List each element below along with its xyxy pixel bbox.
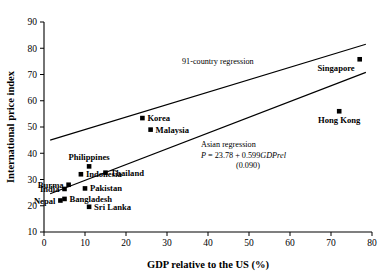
data-point-malaysia: Malaysia: [148, 125, 189, 135]
marker-square: [140, 116, 145, 121]
data-point-hong-kong: Hong Kong: [318, 109, 361, 125]
chart-figure: 102030405060708090 01020304050607080 Nep…: [0, 0, 382, 275]
y-tick-label-10: 10: [28, 227, 38, 237]
data-point-korea: Korea: [140, 113, 171, 123]
data-point-label: Sri Lanka: [94, 202, 132, 212]
x-tick-label-0: 0: [42, 238, 47, 248]
marker-square: [58, 198, 63, 203]
data-point-label: Burma: [38, 180, 64, 190]
marker-square: [337, 109, 342, 114]
x-axis-title: GDP relative to the US (%): [147, 259, 269, 271]
data-point-label: Hong Kong: [318, 115, 361, 125]
equation-variable: GDPrel: [260, 151, 286, 160]
marker-square: [66, 182, 71, 187]
data-points: NepalBangladeshIndiaBurmaIndonesiaPakist…: [34, 57, 362, 212]
y-tick-label-30: 30: [28, 175, 38, 185]
y-tick-label-50: 50: [28, 122, 38, 132]
data-point-label: Pakistan: [90, 183, 122, 193]
x-tick-label-40: 40: [203, 238, 213, 248]
data-point-label: Philippines: [69, 152, 111, 162]
annotation-asian-regression: Asian regression: [201, 140, 256, 149]
y-axis-title: International price index: [5, 70, 16, 183]
x-tick-label-60: 60: [285, 238, 295, 248]
data-point-philippines: Philippines: [69, 152, 111, 168]
x-tick-label-10: 10: [80, 238, 90, 248]
y-tick-label-80: 80: [28, 44, 38, 54]
data-point-nepal: Nepal: [34, 196, 63, 206]
scatter-plot-svg: 102030405060708090 01020304050607080 Nep…: [0, 0, 382, 275]
y-tick-label-60: 60: [28, 96, 38, 106]
y-tick-label-90: 90: [28, 17, 38, 27]
data-point-sri-lanka: Sri Lanka: [87, 202, 132, 212]
data-point-singapore: Singapore: [318, 57, 362, 73]
chart-axes: 102030405060708090 01020304050607080: [28, 17, 378, 248]
marker-square: [87, 164, 92, 169]
marker-square: [83, 186, 88, 191]
data-point-pakistan: Pakistan: [83, 183, 123, 193]
x-axis-ticks: 01020304050607080: [42, 232, 377, 248]
annotation-91-country-regression: 91-country regression: [182, 57, 254, 66]
data-point-label: Nepal: [34, 196, 56, 206]
marker-square: [357, 57, 362, 62]
annotation-asian-equation: P = 23.78 + 0.599GDPrel: [200, 151, 287, 160]
marker-square: [87, 205, 92, 210]
y-tick-label-70: 70: [28, 70, 38, 80]
x-tick-label-20: 20: [121, 238, 131, 248]
x-tick-label-70: 70: [326, 238, 336, 248]
x-tick-label-30: 30: [162, 238, 172, 248]
data-point-label: Singapore: [318, 63, 355, 73]
marker-square: [103, 170, 108, 175]
marker-square: [148, 127, 153, 132]
y-tick-label-40: 40: [28, 149, 38, 159]
marker-square: [62, 197, 67, 202]
data-point-label: Thailand: [111, 168, 145, 178]
x-tick-label-50: 50: [244, 238, 254, 248]
marker-square: [79, 172, 84, 177]
data-point-label: Korea: [147, 113, 170, 123]
x-tick-label-80: 80: [367, 238, 377, 248]
equation-body: = 23.78 + 0.599: [206, 151, 260, 160]
annotation-asian-standard-error: (0.090): [236, 161, 260, 170]
data-point-label: Malaysia: [156, 125, 190, 135]
